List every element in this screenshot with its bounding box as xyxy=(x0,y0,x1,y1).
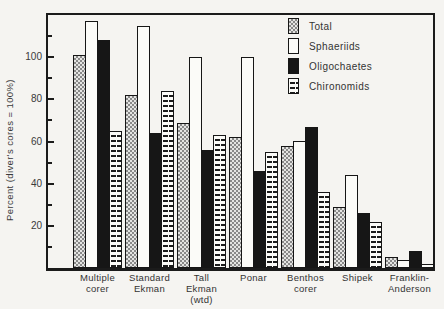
legend: TotalSphaeriidsOligochaetesChironomids xyxy=(288,18,372,98)
legend-label-chironomids: Chironomids xyxy=(309,81,370,92)
x-category-label-franklin-anderson: Franklin- Anderson xyxy=(376,272,444,294)
y-tick-50 xyxy=(48,162,52,164)
bar-chironomids-franklin-anderson xyxy=(421,264,434,268)
legend-label-total: Total xyxy=(309,21,332,32)
x-axis-labels: Multiple corerStandard EkmanTall Ekman (… xyxy=(48,272,437,309)
y-tick-label-60: 60 xyxy=(2,136,42,148)
legend-swatch-chironomids xyxy=(288,78,299,94)
bar-chironomids-standard-ekman xyxy=(161,91,174,268)
y-tick-label-100: 100 xyxy=(2,51,42,63)
y-tick-10 xyxy=(48,246,52,248)
legend-swatch-total xyxy=(288,18,299,34)
y-tick-40 xyxy=(48,183,54,185)
y-tick-label-80: 80 xyxy=(2,93,42,105)
legend-item-oligochaetes: Oligochaetes xyxy=(288,58,372,74)
y-tick-90 xyxy=(48,77,52,79)
bar-chironomids-benthos-corer xyxy=(317,192,330,268)
legend-item-total: Total xyxy=(288,18,372,34)
legend-item-chironomids: Chironomids xyxy=(288,78,372,94)
y-tick-20 xyxy=(48,225,54,227)
y-tick-label-20: 20 xyxy=(2,220,42,232)
y-tick-30 xyxy=(48,204,52,206)
bar-chironomids-tall-ekman-wtd xyxy=(213,135,226,268)
legend-swatch-oligochaetes xyxy=(288,58,299,74)
legend-swatch-sphaeriids xyxy=(288,38,299,54)
legend-label-sphaeriids: Sphaeriids xyxy=(309,41,360,52)
y-tick-100 xyxy=(48,56,54,58)
bar-chironomids-shipek xyxy=(369,222,382,268)
y-tick-70 xyxy=(48,119,52,121)
y-tick-label-40: 40 xyxy=(2,178,42,190)
bar-chironomids-ponar xyxy=(265,152,278,268)
y-tick-110 xyxy=(48,35,52,37)
plot-area: 20406080100TotalSphaeriidsOligochaetesCh… xyxy=(46,13,435,271)
bar-chironomids-multiple-corer xyxy=(109,131,122,268)
y-tick-60 xyxy=(48,141,54,143)
y-tick-80 xyxy=(48,98,54,100)
legend-item-sphaeriids: Sphaeriids xyxy=(288,38,372,54)
legend-label-oligochaetes: Oligochaetes xyxy=(309,61,372,72)
figure: Percent (diver's cores = 100%) 204060801… xyxy=(0,0,444,309)
